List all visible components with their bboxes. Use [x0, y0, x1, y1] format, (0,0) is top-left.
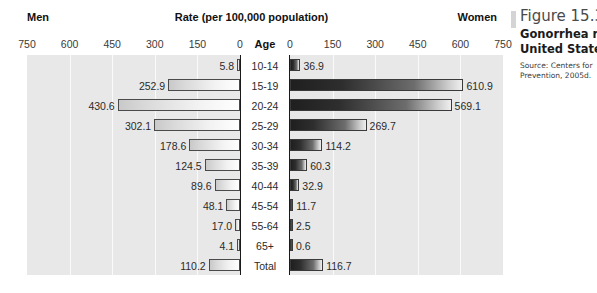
women-value-30-34: 114.2: [325, 141, 351, 152]
figure-number: Figure 15.3: [511, 8, 597, 25]
men-value-30-34: 178.6: [126, 141, 186, 152]
women-bar-10-14: [290, 59, 300, 71]
women-value-10-14: 36.9: [303, 61, 323, 72]
age-label-45-54: 45-54: [240, 201, 290, 212]
men-value-45-54: 48.1: [163, 201, 223, 212]
age-label-35-39: 35-39: [240, 161, 290, 172]
right-tick-450: 450: [409, 38, 427, 50]
women-value-35-39: 60.3: [310, 161, 330, 172]
women-bar-35-39: [290, 159, 307, 171]
left-tick-300: 300: [146, 38, 164, 50]
men-bar-20-24: [118, 99, 240, 111]
men-value-55-64: 17.0: [172, 221, 232, 232]
women-value-Total: 116.7: [326, 261, 352, 272]
age-label-20-24: 20-24: [240, 101, 290, 112]
men-bar-15-19: [168, 79, 240, 91]
men-value-Total: 110.2: [146, 261, 206, 272]
age-label-10-14: 10-14: [240, 61, 290, 72]
left-tick-450: 450: [103, 38, 121, 50]
women-bar-55-64: [290, 219, 293, 231]
women-value-65+: 0.6: [296, 241, 311, 252]
men-bar-35-39: [205, 159, 240, 171]
women-value-25-29: 269.7: [370, 121, 396, 132]
age-label-Total: Total: [240, 261, 290, 272]
caption-line-2: United States: [511, 42, 597, 57]
age-label-65+: 65+: [240, 241, 290, 252]
age-label-30-34: 30-34: [240, 141, 290, 152]
women-value-15-19: 610.9: [466, 81, 492, 92]
right-tick-150: 150: [324, 38, 342, 50]
men-value-15-19: 252.9: [105, 81, 165, 92]
women-bar-30-34: [290, 139, 322, 151]
women-value-55-64: 2.5: [296, 221, 311, 232]
right-tick-750: 750: [494, 38, 512, 50]
caption-source-2: Prevention, 2005d.: [511, 71, 597, 82]
women-bar-65+: [290, 239, 293, 251]
caption-line-1: Gonorrhea ra: [511, 27, 597, 42]
women-value-40-44: 32.9: [302, 181, 322, 192]
left-tick-750: 750: [18, 38, 36, 50]
women-bar-25-29: [290, 119, 367, 131]
right-tick-300: 300: [366, 38, 384, 50]
women-column-header: Women: [0, 11, 497, 23]
men-value-65+: 4.1: [174, 241, 234, 252]
women-bar-20-24: [290, 99, 452, 111]
men-value-10-14: 5.8: [174, 61, 234, 72]
men-bar-40-44: [215, 179, 240, 191]
age-label-25-29: 25-29: [240, 121, 290, 132]
gridline-left-600: [70, 55, 71, 275]
caption-source-1: Source: Centers for: [511, 61, 597, 72]
women-bar-40-44: [290, 179, 299, 191]
left-tick-150: 150: [189, 38, 207, 50]
men-value-20-24: 430.6: [55, 101, 115, 112]
age-label-15-19: 15-19: [240, 81, 290, 92]
men-value-25-29: 302.1: [91, 121, 151, 132]
men-value-35-39: 124.5: [142, 161, 202, 172]
age-label-55-64: 55-64: [240, 221, 290, 232]
plot-area: 5.810-1436.9252.915-19610.9430.620-24569…: [27, 55, 503, 275]
women-value-45-54: 11.7: [296, 201, 316, 212]
women-bar-15-19: [290, 79, 463, 91]
caption-accent-bar: [511, 11, 516, 28]
men-value-40-44: 89.6: [152, 181, 212, 192]
left-tick-600: 600: [61, 38, 79, 50]
right-tick-600: 600: [452, 38, 470, 50]
men-bar-30-34: [189, 139, 240, 151]
gonorrhea-rate-pyramid-chart: Men Rate (per 100,000 population) Women …: [0, 0, 503, 293]
men-bar-Total: [209, 259, 240, 271]
age-label-40-44: 40-44: [240, 181, 290, 192]
age-column-header: Age: [240, 38, 290, 50]
women-bar-45-54: [290, 199, 293, 211]
figure-caption: Figure 15.3 Gonorrhea ra United States S…: [511, 8, 597, 293]
women-value-20-24: 569.1: [455, 101, 481, 112]
women-bar-Total: [290, 259, 323, 271]
men-bar-45-54: [226, 199, 240, 211]
men-bar-25-29: [154, 119, 240, 131]
